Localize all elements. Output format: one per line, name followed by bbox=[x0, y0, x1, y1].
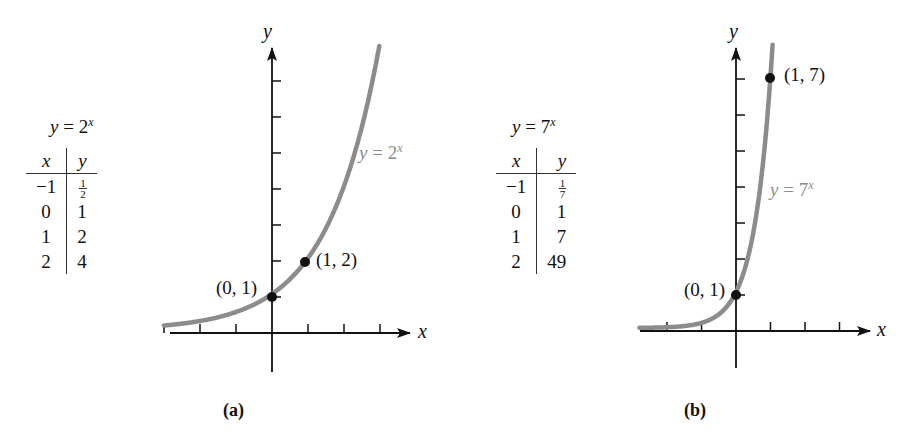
point-label-0-1-b: (0, 1) bbox=[684, 279, 725, 301]
curve-label-a: y = 2x bbox=[359, 141, 402, 164]
point-label-0-1-a: (0, 1) bbox=[216, 277, 257, 299]
y-axis-label-a: y bbox=[263, 20, 272, 43]
y-axis-label-b: y bbox=[729, 20, 738, 43]
point-1-2 bbox=[300, 257, 310, 267]
point-0-1-b bbox=[731, 290, 741, 300]
caption-b: (b) bbox=[684, 400, 706, 421]
plots-canvas bbox=[0, 0, 907, 445]
x-axis-label-a: x bbox=[418, 320, 427, 343]
point-label-1-2: (1, 2) bbox=[316, 249, 357, 271]
point-0-1-a bbox=[267, 292, 277, 302]
point-1-7 bbox=[765, 73, 775, 83]
curve-label-b: y = 7x bbox=[770, 178, 813, 201]
graph-panel-b bbox=[639, 45, 870, 368]
point-label-1-7: (1, 7) bbox=[784, 64, 825, 86]
x-axis-label-b: x bbox=[877, 318, 886, 341]
caption-a: (a) bbox=[223, 400, 244, 421]
graph-panel-a bbox=[164, 46, 410, 372]
